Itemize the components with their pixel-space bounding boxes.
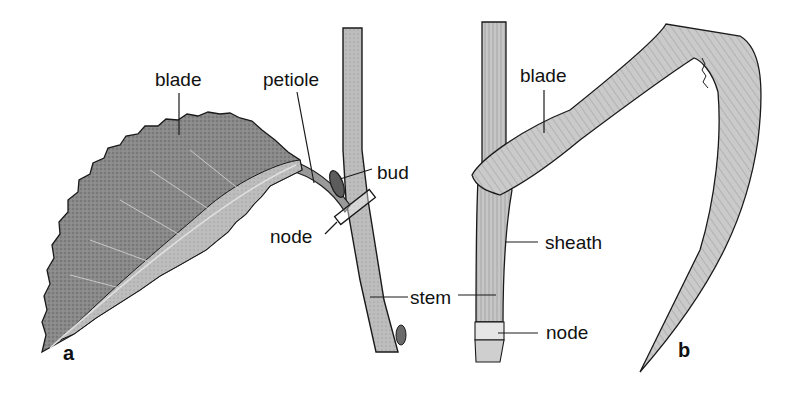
leaf-anatomy-diagram: blade petiole bud node stem a blade shea… [0,0,786,393]
label-petiole: petiole [263,70,319,89]
panel-letter-a: a [63,343,74,363]
label-node-b: node [546,323,588,342]
label-bud: bud [377,163,409,182]
leaf-blade-a [42,112,302,352]
panel-letter-b: b [678,340,690,360]
label-node-a: node [270,227,312,246]
label-blade-b: blade [520,66,567,85]
stem-a [343,28,406,352]
illustration [0,0,786,393]
label-blade-a: blade [155,70,202,89]
label-sheath: sheath [545,233,602,252]
label-stem: stem [410,288,451,307]
grass-blade-b [472,24,761,372]
